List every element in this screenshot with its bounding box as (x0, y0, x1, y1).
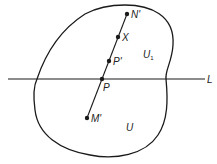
region-boundary-curve (34, 5, 173, 157)
label-u1-sub: 1 (150, 55, 154, 61)
point-x (116, 35, 120, 39)
label-p: P (103, 82, 110, 93)
label-line-L: L (207, 74, 213, 85)
point-p (100, 77, 104, 81)
label-region-u1: U1 (143, 49, 154, 61)
label-p-prime: P' (113, 56, 123, 67)
point-p-prime (107, 59, 111, 63)
point-m-prime (85, 116, 89, 120)
diagram-canvas: N' X P' P M' L U1 U (0, 0, 217, 164)
label-region-u: U (126, 122, 134, 133)
point-n-prime (125, 12, 129, 16)
label-n-prime: N' (131, 9, 141, 20)
label-m-prime: M' (91, 113, 102, 124)
label-x: X (121, 32, 129, 43)
